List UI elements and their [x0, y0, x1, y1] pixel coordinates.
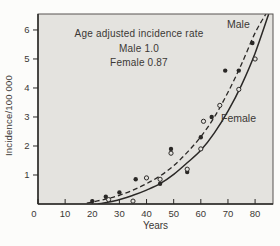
data-point-female	[218, 103, 222, 107]
data-point-male	[158, 182, 162, 186]
data-point-female	[199, 147, 203, 151]
x-tick-label: 30	[114, 208, 125, 219]
data-point-female	[144, 176, 148, 180]
x-tick-label: 70	[223, 208, 234, 219]
annotation-line-1: Age adjusted incidence rate	[50, 27, 228, 42]
x-axis-title: Years	[38, 220, 273, 231]
x-tick-label: 0	[31, 208, 36, 219]
data-point-male	[250, 41, 254, 45]
annotation-line-3: Female 0.87	[50, 56, 228, 71]
annotation-line-2: Male 1.0	[50, 42, 228, 57]
data-point-female	[158, 177, 162, 181]
x-tick-label: 80	[250, 208, 261, 219]
y-tick-label: 2	[24, 140, 29, 151]
data-point-female	[107, 198, 111, 202]
data-point-male	[134, 177, 138, 181]
data-point-male	[169, 147, 173, 151]
x-tick-label: 20	[87, 208, 98, 219]
male-series-label: Male	[227, 18, 250, 30]
y-tick-label: 4	[24, 82, 29, 93]
x-tick-label: 60	[196, 208, 207, 219]
data-point-female	[201, 119, 205, 123]
data-point-male	[199, 135, 203, 139]
data-point-male	[210, 115, 214, 119]
female-series-label: Female	[221, 112, 256, 124]
data-point-male	[117, 190, 121, 194]
data-point-female	[237, 87, 241, 91]
y-tick-label: 5	[24, 53, 29, 64]
x-tick-label: 40	[141, 208, 152, 219]
y-tick-label: 3	[24, 111, 29, 122]
x-tick-label: 10	[60, 208, 71, 219]
data-point-female	[185, 167, 189, 171]
y-tick-label: 1	[24, 169, 29, 180]
data-point-female	[253, 57, 257, 61]
data-point-female	[131, 199, 135, 203]
x-tick-label: 50	[168, 208, 179, 219]
data-point-female	[169, 151, 173, 155]
y-axis-title: Incidence/100 000	[3, 56, 14, 176]
y-tick-label: 6	[24, 24, 29, 35]
data-point-male	[237, 68, 241, 72]
annotation-box: Age adjusted incidence rate Male 1.0 Fem…	[50, 27, 228, 71]
incidence-chart-figure: 01020304050607080123456 Age adjusted inc…	[0, 0, 280, 246]
